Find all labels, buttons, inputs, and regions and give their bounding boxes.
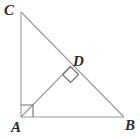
triangle-diagram-svg	[0, 0, 140, 139]
vertex-label-c: C	[4, 3, 14, 18]
vertex-label-d: D	[73, 54, 84, 69]
geometry-figure: C D A B	[0, 0, 140, 139]
vertex-label-b: B	[125, 118, 135, 133]
vertex-label-a: A	[11, 120, 21, 135]
right-angle-mark-at-D	[63, 75, 79, 83]
